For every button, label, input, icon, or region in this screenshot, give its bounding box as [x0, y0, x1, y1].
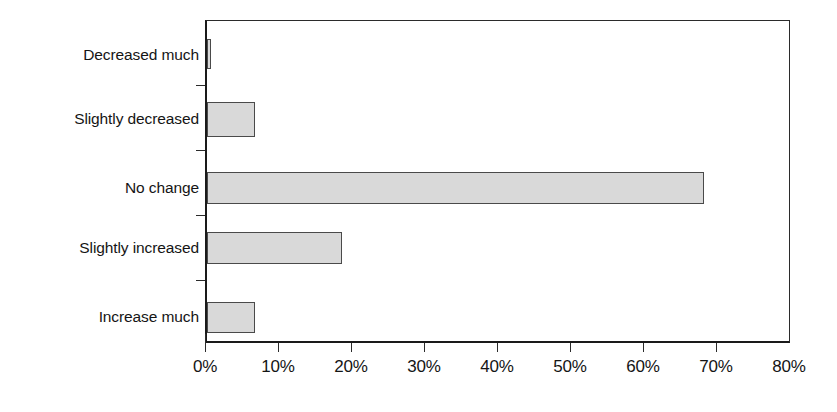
y-axis-tick-4: [196, 280, 205, 281]
y-axis-label-slightly-increased: Slightly increased: [0, 239, 199, 257]
bar-slightly-increased: [207, 232, 342, 264]
y-axis-label-increase-much: Increase much: [0, 308, 199, 326]
x-axis-tick-60: [643, 343, 644, 352]
plot-area: [205, 20, 790, 343]
x-axis-tick-30: [424, 343, 425, 352]
y-axis-label-slightly-decreased: Slightly decreased: [0, 110, 199, 128]
y-axis-label-decreased-much: Decreased much: [0, 46, 199, 64]
y-axis-label-no-change: No change: [0, 179, 199, 197]
bar-no-change: [207, 172, 704, 204]
bar-chart: Decreased much Slightly decreased No cha…: [0, 0, 837, 412]
x-axis-tick-0-up: [205, 334, 206, 343]
bar-slightly-decreased: [207, 102, 255, 137]
x-axis-tick-20: [351, 343, 352, 352]
y-axis-tick-3: [196, 215, 205, 216]
x-axis-tick-70: [716, 343, 717, 352]
x-axis-tick-40: [497, 343, 498, 352]
bar-decreased-much: [207, 39, 211, 69]
bar-increase-much: [207, 302, 255, 333]
y-axis-tick-1: [196, 85, 205, 86]
x-axis-tick-label-80: 80%: [744, 357, 834, 377]
x-axis-tick-50: [570, 343, 571, 352]
x-axis-tick-0: [205, 343, 206, 352]
x-axis-tick-10: [278, 343, 279, 352]
y-axis-tick-2: [196, 150, 205, 151]
